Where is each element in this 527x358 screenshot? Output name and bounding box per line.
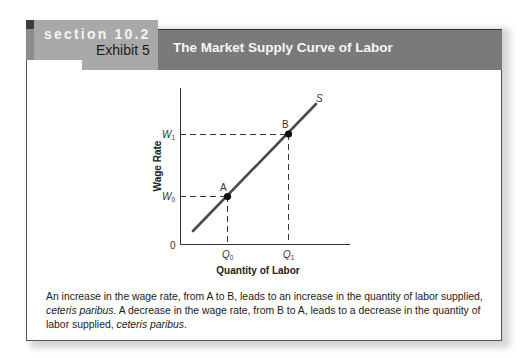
caption-text-3: . <box>184 319 187 330</box>
exhibit-caption: An increase in the wage rate, from A to … <box>46 290 486 332</box>
y-axis-label: Wage Rate <box>152 140 163 191</box>
caption-text-1: An increase in the wage rate, from A to … <box>46 291 483 302</box>
caption-italic-2: ceteris paribus <box>116 319 184 330</box>
x-tick-q1: Q1 <box>283 249 295 261</box>
curve-label-s: S <box>316 93 323 104</box>
y-tick-w1: W1 <box>162 129 175 141</box>
y-tick-w0: W0 <box>162 191 175 203</box>
x-tick-q0: Q0 <box>222 249 234 261</box>
point-a-label: A <box>220 182 227 193</box>
point-a-marker <box>224 193 231 200</box>
supply-curve-line <box>193 104 316 231</box>
origin-label: 0 <box>170 240 176 251</box>
point-b-label: B <box>282 119 289 130</box>
caption-italic-1: ceteris paribus <box>46 305 114 316</box>
point-b-marker <box>285 130 292 137</box>
x-axis-label: Quantity of Labor <box>216 265 299 276</box>
